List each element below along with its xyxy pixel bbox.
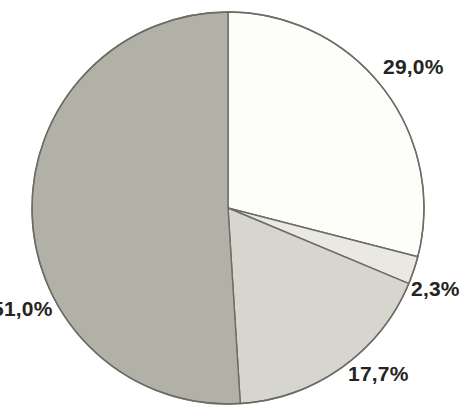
pie-slice-label-29: 29,0% [383,56,444,77]
pie-slice-label-17-7: 17,7% [348,363,409,384]
pie-slice-label-2-3: 2,3% [411,278,460,299]
pie-slice-label-51: 51,0% [0,298,53,319]
pie-chart: 29,0% 2,3% 17,7% 51,0% [0,0,465,410]
slice-gray [32,12,240,404]
